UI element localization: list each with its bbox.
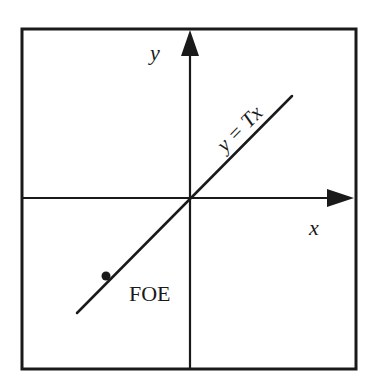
y-axis-label: y (148, 40, 160, 65)
foe-label: FOE (129, 281, 171, 306)
line-y-equals-tx (77, 96, 292, 313)
y-axis-arrow-icon (181, 30, 199, 56)
x-axis-label: x (308, 215, 319, 240)
foe-point-icon (102, 272, 111, 281)
diagram-canvas: y x y = Tx FOE (0, 0, 372, 389)
x-axis-arrow-icon (327, 189, 354, 207)
